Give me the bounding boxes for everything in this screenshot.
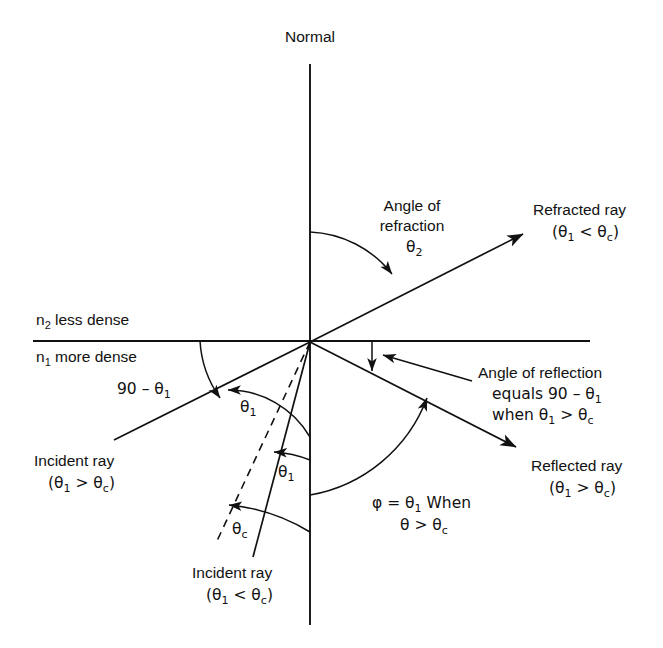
reflected-ray-line: [310, 342, 516, 447]
reflected-ray-condition: (θ1 > θc): [549, 479, 616, 500]
refracted-ray-condition: (θ1 < θc): [552, 223, 619, 244]
incident-ray-upper-condition: (θ1 > θc): [48, 474, 115, 495]
angle-of-refraction-arc: [310, 232, 392, 274]
angle-of-refraction-symbol: θ2: [406, 238, 422, 259]
theta1-upper-label: θ1: [240, 398, 256, 419]
angle-of-reflection-line1: Angle of reflection: [478, 364, 602, 381]
medium-upper-label: n2 less dense: [36, 311, 129, 331]
reflected-ray-label: Reflected ray: [531, 457, 623, 474]
phi-line2: θ > θc: [400, 516, 448, 537]
incident-ray-lower-condition: (θ1 < θc): [206, 586, 273, 607]
phi-arc: [310, 398, 427, 495]
incident-ray-upper-label: Incident ray: [34, 452, 114, 469]
refracted-ray-label: Refracted ray: [533, 201, 626, 218]
angle-of-reflection-leader: [383, 355, 472, 381]
incident-ray-lower-label: Incident ray: [192, 564, 272, 581]
angle-of-refraction-line2: refraction: [380, 217, 445, 234]
critical-angle-dashed-line: [216, 342, 310, 543]
incident-ray-lower-line: [253, 342, 310, 557]
normal-label: Normal: [285, 28, 335, 45]
diagram-canvas: Normal n2 less dense n1 more dense Angle…: [0, 0, 663, 648]
theta1-lower-label: θ1: [278, 463, 294, 484]
angle-of-reflection-line2: equals 90 – θ1: [492, 385, 602, 406]
medium-lower-label: n1 more dense: [36, 348, 137, 368]
optics-diagram: Normal n2 less dense n1 more dense Angle…: [0, 0, 663, 648]
theta-c-label: θc: [232, 520, 248, 541]
phi-line1: φ = θ1 When: [372, 494, 471, 515]
ninety-minus-theta1-label: 90 – θ1: [117, 380, 171, 401]
angle-of-refraction-line1: Angle of: [384, 197, 442, 214]
angle-of-reflection-line3: when θ1 > θc: [492, 406, 594, 427]
